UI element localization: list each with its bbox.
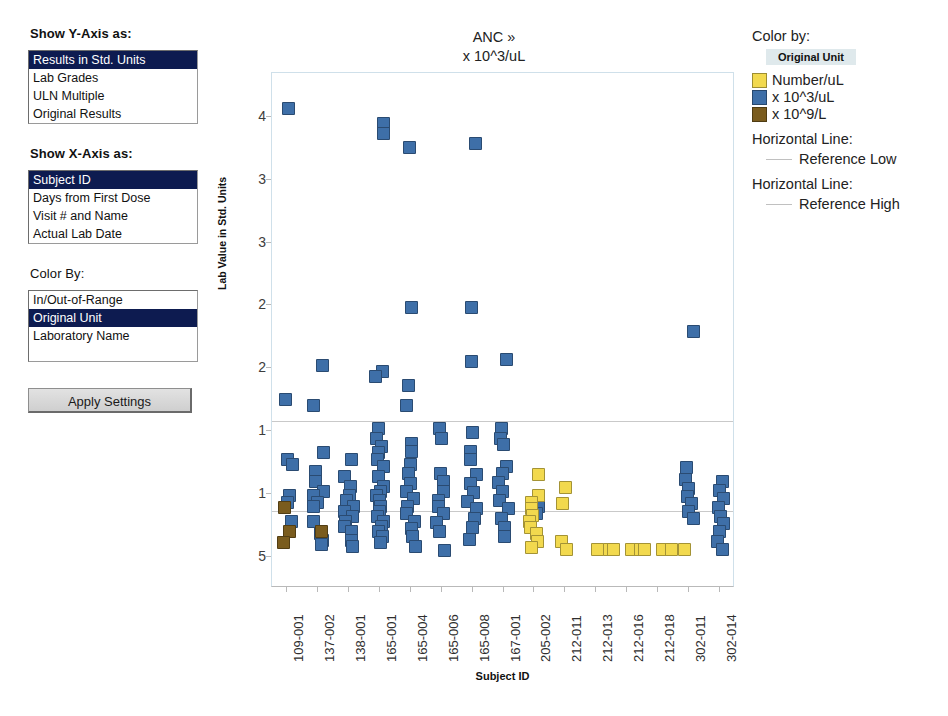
scatter-point[interactable]: [665, 543, 678, 556]
x-tick-mark: [719, 587, 720, 592]
color-by-listbox[interactable]: In/Out-of-RangeOriginal UnitLaboratory N…: [28, 290, 198, 362]
x-tick-label: 212-018: [662, 614, 677, 662]
legend-item[interactable]: Number/uL: [752, 72, 942, 88]
legend-field-chip: Original Unit: [766, 49, 856, 65]
scatter-point[interactable]: [464, 453, 477, 466]
x-tick-mark: [657, 587, 658, 592]
legend-panel: Color by: Original Unit Number/uLx 10^3/…: [752, 28, 942, 212]
scatter-point[interactable]: [307, 500, 320, 513]
reference-line-icon: [766, 159, 792, 160]
y-axis-option-1[interactable]: Lab Grades: [29, 69, 197, 87]
scatter-point[interactable]: [466, 426, 479, 439]
scatter-point[interactable]: [405, 445, 418, 458]
x-tick-mark: [472, 587, 473, 592]
scatter-point[interactable]: [435, 432, 448, 445]
scatter-point[interactable]: [400, 399, 413, 412]
scatter-point[interactable]: [316, 359, 329, 372]
scatter-point[interactable]: [500, 353, 513, 366]
scatter-point[interactable]: [556, 497, 569, 510]
x-tick-label: 165-001: [384, 614, 399, 662]
scatter-point[interactable]: [716, 543, 729, 556]
scatter-point[interactable]: [497, 438, 510, 451]
scatter-point[interactable]: [465, 355, 478, 368]
scatter-point[interactable]: [560, 543, 573, 556]
y-axis-option-0[interactable]: Results in Std. Units: [29, 51, 197, 69]
x-tick-mark: [379, 587, 380, 592]
x-tick-label: 302-014: [724, 614, 739, 662]
y-tick-label: 4: [240, 108, 266, 124]
y-tick-label: 3: [240, 234, 266, 250]
x-tick-label: 167-001: [508, 614, 523, 662]
x-tick-label: 165-008: [477, 614, 492, 662]
legend-line-item[interactable]: Reference High: [752, 196, 942, 212]
scatter-point[interactable]: [680, 461, 693, 474]
scatter-point[interactable]: [532, 468, 545, 481]
y-axis-listbox[interactable]: Results in Std. UnitsLab GradesULN Multi…: [28, 50, 198, 124]
x-tick-mark: [441, 587, 442, 592]
legend-item-label: x 10^9/L: [772, 106, 826, 122]
reference-line-icon: [766, 204, 792, 205]
apply-settings-button[interactable]: Apply Settings: [28, 388, 192, 413]
color-by-option-2[interactable]: Laboratory Name: [29, 327, 197, 345]
legend-item[interactable]: x 10^3/uL: [752, 89, 942, 105]
scatter-point[interactable]: [525, 541, 538, 554]
scatter-point[interactable]: [377, 127, 390, 140]
x-tick-label: 212-011: [569, 615, 584, 662]
scatter-point[interactable]: [286, 458, 299, 471]
legend-line-item[interactable]: Reference Low: [752, 151, 942, 167]
y-axis-heading: Show Y-Axis as:: [30, 26, 198, 41]
scatter-point[interactable]: [403, 141, 416, 154]
scatter-point[interactable]: [687, 512, 700, 525]
scatter-point[interactable]: [369, 370, 382, 383]
x-tick-mark: [595, 587, 596, 592]
scatter-point[interactable]: [638, 543, 651, 556]
x-axis-option-3[interactable]: Actual Lab Date: [29, 225, 197, 243]
legend-line-label: Reference Low: [799, 151, 897, 167]
color-by-option-1[interactable]: Original Unit: [29, 309, 197, 327]
x-tick-label: 302-011: [693, 615, 708, 662]
x-axis-option-2[interactable]: Visit # and Name: [29, 207, 197, 225]
scatter-point[interactable]: [498, 530, 511, 543]
x-tick-mark: [317, 587, 318, 592]
legend-item-label: x 10^3/uL: [772, 89, 834, 105]
x-axis-heading: Show X-Axis as:: [30, 146, 198, 161]
y-tick-label: 3: [240, 171, 266, 187]
scatter-point[interactable]: [559, 481, 572, 494]
y-axis-option-3[interactable]: Original Results: [29, 105, 197, 123]
scatter-point[interactable]: [278, 501, 291, 514]
scatter-point[interactable]: [277, 536, 290, 549]
scatter-point[interactable]: [315, 525, 328, 538]
scatter-point[interactable]: [405, 301, 418, 314]
scatter-point[interactable]: [345, 453, 358, 466]
color-by-heading: Color By:: [30, 266, 198, 281]
scatter-point[interactable]: [607, 543, 620, 556]
x-axis-option-1[interactable]: Days from First Dose: [29, 189, 197, 207]
scatter-point[interactable]: [307, 399, 320, 412]
scatter-point[interactable]: [282, 102, 295, 115]
scatter-point[interactable]: [402, 379, 415, 392]
x-tick-mark: [564, 587, 565, 592]
scatter-point[interactable]: [463, 533, 476, 546]
x-axis-listbox[interactable]: Subject IDDays from First DoseVisit # an…: [28, 170, 198, 244]
plot-area[interactable]: [271, 72, 734, 587]
scatter-point[interactable]: [409, 540, 422, 553]
y-axis-option-2[interactable]: ULN Multiple: [29, 87, 197, 105]
scatter-point[interactable]: [469, 137, 482, 150]
color-by-option-0[interactable]: In/Out-of-Range: [29, 291, 197, 309]
x-axis-option-0[interactable]: Subject ID: [29, 171, 197, 189]
scatter-point[interactable]: [279, 393, 292, 406]
x-tick-mark: [688, 587, 689, 592]
scatter-point[interactable]: [374, 536, 387, 549]
legend-item[interactable]: x 10^9/L: [752, 106, 942, 122]
scatter-point[interactable]: [317, 446, 330, 459]
legend-swatch-icon: [752, 107, 767, 122]
legend-line-heading: Horizontal Line:: [752, 176, 942, 192]
x-tick-label: 165-004: [415, 614, 430, 662]
scatter-point[interactable]: [678, 543, 691, 556]
scatter-point[interactable]: [687, 325, 700, 338]
scatter-point[interactable]: [346, 540, 359, 553]
scatter-point[interactable]: [433, 525, 446, 538]
scatter-point[interactable]: [315, 538, 328, 551]
scatter-point[interactable]: [438, 544, 451, 557]
scatter-point[interactable]: [465, 301, 478, 314]
